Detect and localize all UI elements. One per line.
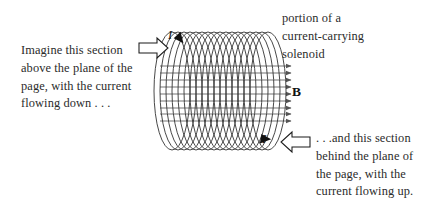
- bottom-right-annotation-text: . . .and this section behind the plane o…: [316, 130, 413, 201]
- solenoid-caption-text: portion of a current-carrying solenoid: [282, 10, 364, 63]
- solenoid-coil: [154, 32, 286, 150]
- back-current-block-arrow: [281, 132, 310, 152]
- left-annotation-text: Imagine this section above the plane of …: [21, 42, 133, 113]
- current-label-top: I: [168, 28, 172, 43]
- current-label-bottom: I: [262, 132, 266, 147]
- solenoid-figure: Imagine this section above the plane of …: [0, 0, 445, 207]
- magnetic-field-label: B: [292, 84, 301, 100]
